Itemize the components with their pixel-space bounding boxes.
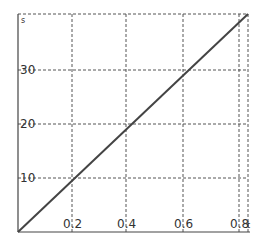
y-tick-30: 30: [20, 63, 35, 77]
x-tick-0.4: 0.4: [117, 217, 136, 231]
line-chart: s 30 20 10 0.2 0.4 0.6 0.8 t: [0, 0, 261, 245]
y-axis-label: s: [21, 16, 25, 25]
y-tick-10: 10: [20, 171, 35, 185]
data-line: [18, 14, 248, 232]
x-tick-0.6: 0.6: [174, 217, 193, 231]
y-tick-20: 20: [20, 117, 35, 131]
x-axis-label: t: [247, 221, 250, 230]
x-tick-0.2: 0.2: [63, 217, 82, 231]
